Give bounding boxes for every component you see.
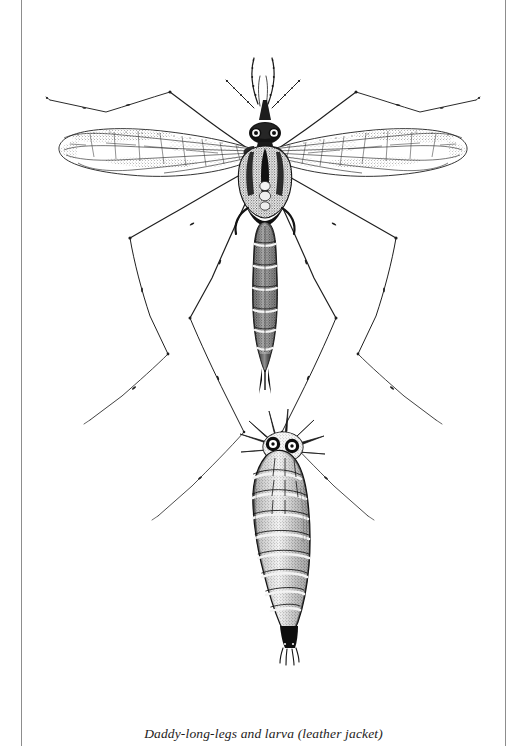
crane-fly-thorax xyxy=(236,146,295,234)
book-page: Daddy-long-legs and larva (leather jacke… xyxy=(0,0,520,746)
right-margin-rule xyxy=(505,0,506,746)
crane-fly-wing-left xyxy=(59,129,257,177)
mid-leg-left xyxy=(84,168,253,424)
illustration-plate xyxy=(22,0,505,710)
mid-leg-right xyxy=(273,168,442,424)
larva-leather-jacket xyxy=(240,409,325,665)
hind-leg-left xyxy=(152,176,258,520)
larva-body xyxy=(252,450,310,634)
crane-fly-abdomen xyxy=(253,222,278,394)
plate-caption: Daddy-long-legs and larva (leather jacke… xyxy=(22,726,505,742)
larva-head xyxy=(280,626,299,665)
crane-fly-wing-right xyxy=(269,129,467,177)
